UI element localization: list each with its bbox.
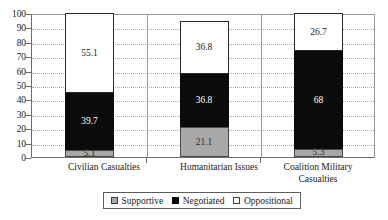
negotiated-swatch-icon — [172, 197, 179, 204]
y-tick-label-20: 20 — [0, 125, 26, 135]
bar-humanitarian-issues[interactable]: 21.1 36.8 36.8 — [180, 21, 229, 157]
y-tick-label-0: 0 — [0, 154, 26, 164]
y-tick-label-50: 50 — [0, 82, 26, 92]
category-separator-2 — [261, 15, 262, 157]
legend-item-oppositional[interactable]: Oppositional — [233, 196, 293, 206]
bar-civilian-casualties[interactable]: 5.1 39.7 55.1 — [65, 13, 114, 157]
bar-segment-oppositional[interactable]: 36.8 — [180, 21, 229, 74]
bar-value-label-supportive: 5.3 — [313, 147, 325, 157]
bar-value-label-oppositional: 55.1 — [81, 48, 98, 58]
plot-area: 5.1 39.7 55.1 21.1 36.8 36.8 5.3 — [31, 14, 375, 158]
bar-value-label-supportive: 21.1 — [196, 137, 213, 147]
y-tick-label-40: 40 — [0, 96, 26, 106]
bar-value-label-negotiated: 36.8 — [196, 95, 213, 105]
x-category-line: Casualties — [254, 174, 382, 186]
y-tick-label-70: 70 — [0, 53, 26, 63]
bar-segment-oppositional[interactable]: 55.1 — [65, 13, 114, 92]
y-tick-label-80: 80 — [0, 39, 26, 49]
supportive-swatch-icon — [111, 197, 118, 204]
bar-segment-supportive[interactable]: 5.1 — [65, 150, 114, 157]
x-category-line: Coalition Military — [254, 162, 382, 174]
bar-value-label-negotiated: 68 — [314, 95, 324, 105]
bar-value-label-oppositional: 36.8 — [196, 42, 213, 52]
stacked-bar-chart: 100 90 80 70 60 50 40 30 20 10 0 — [0, 0, 388, 220]
bar-coalition-military-casualties[interactable]: 5.3 68 26.7 — [294, 13, 343, 157]
x-category-label-coalition-military-casualties: Coalition Military Casualties — [254, 162, 382, 185]
legend-label: Supportive — [122, 196, 164, 206]
bar-segment-supportive[interactable]: 21.1 — [180, 127, 229, 157]
y-tick-label-30: 30 — [0, 111, 26, 121]
legend-item-negotiated[interactable]: Negotiated — [172, 196, 224, 206]
bar-segment-negotiated[interactable]: 68 — [294, 51, 343, 149]
bar-value-label-negotiated: 39.7 — [81, 116, 98, 126]
bar-segment-supportive[interactable]: 5.3 — [294, 149, 343, 157]
category-separator-1 — [147, 15, 148, 157]
y-tick-label-60: 60 — [0, 68, 26, 78]
bar-value-label-supportive: 5.1 — [84, 148, 96, 158]
y-tick-label-100: 100 — [0, 10, 26, 20]
y-tick-label-90: 90 — [0, 24, 26, 34]
y-tick-label-10: 10 — [0, 140, 26, 150]
legend-item-supportive[interactable]: Supportive — [111, 196, 163, 206]
legend: Supportive Negotiated Oppositional — [103, 192, 301, 209]
legend-label: Oppositional — [244, 196, 293, 206]
legend-label: Negotiated — [183, 196, 225, 206]
y-tick-mark-0 — [25, 158, 31, 159]
bar-value-label-oppositional: 26.7 — [310, 27, 327, 37]
bar-segment-oppositional[interactable]: 26.7 — [294, 13, 343, 51]
bar-segment-negotiated[interactable]: 39.7 — [65, 93, 114, 150]
bar-segment-negotiated[interactable]: 36.8 — [180, 74, 229, 127]
oppositional-swatch-icon — [233, 197, 240, 204]
